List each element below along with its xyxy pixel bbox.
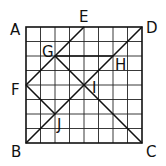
label-point-d: D <box>146 19 158 37</box>
label-point-b: B <box>11 143 21 161</box>
label-point-j: J <box>56 116 61 134</box>
label-point-a: A <box>10 21 21 39</box>
label-point-f: F <box>11 81 20 99</box>
label-point-c: C <box>146 143 156 161</box>
label-point-i: I <box>92 79 96 97</box>
label-point-g: G <box>42 43 54 61</box>
label-point-e: E <box>79 8 88 26</box>
geometry-diagram: AEDGHFIJBC <box>0 0 166 166</box>
label-point-h: H <box>115 56 126 74</box>
